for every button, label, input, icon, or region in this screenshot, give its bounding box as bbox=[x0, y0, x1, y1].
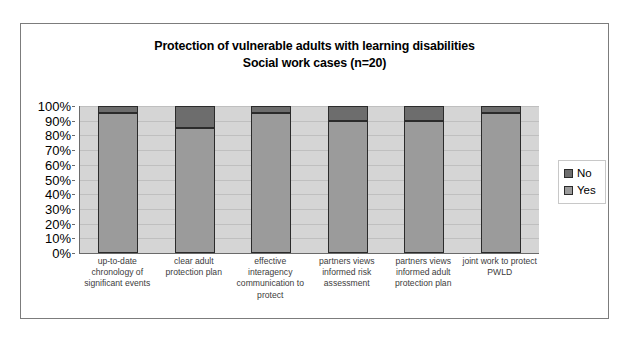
bar-stack bbox=[251, 106, 291, 253]
legend-label: No bbox=[577, 168, 592, 180]
y-axis-tick-mark bbox=[72, 106, 75, 107]
y-axis-tick-label: 10% bbox=[45, 231, 71, 246]
chart-screenshot: Protection of vulnerable adults with lea… bbox=[0, 0, 629, 340]
y-axis-tick-label: 0% bbox=[52, 246, 71, 261]
y-axis-tick-label: 60% bbox=[45, 157, 71, 172]
x-axis-category-label: effective interagency communication to p… bbox=[232, 256, 309, 301]
bar-stack bbox=[328, 106, 368, 253]
bar-stack bbox=[481, 106, 521, 253]
y-axis-tick-mark bbox=[72, 209, 75, 210]
bar-column bbox=[175, 106, 215, 253]
y-axis-tick-label: 80% bbox=[45, 128, 71, 143]
legend-swatch-no bbox=[564, 169, 573, 178]
x-axis-category-label: joint work to protect PWLD bbox=[462, 256, 539, 278]
legend-entry: Yes bbox=[564, 182, 601, 199]
bar-column bbox=[328, 106, 368, 253]
y-axis-tick-label: 100% bbox=[38, 99, 71, 114]
y-axis-tick-label: 90% bbox=[45, 113, 71, 128]
y-axis-tick-mark bbox=[72, 180, 75, 181]
bar-column bbox=[481, 106, 521, 253]
bar-stack bbox=[404, 106, 444, 253]
bar-stack bbox=[175, 106, 215, 253]
bar-segment-no bbox=[481, 106, 521, 113]
y-axis-tick-label: 20% bbox=[45, 216, 71, 231]
y-axis-tick-mark bbox=[72, 150, 75, 151]
bar-stack bbox=[98, 106, 138, 253]
y-axis: 100%90%80%70%60%50%40%30%20%10%0% bbox=[21, 106, 75, 253]
bar-column bbox=[98, 106, 138, 253]
bar-segment-no bbox=[328, 106, 368, 121]
y-axis-tick-mark bbox=[72, 165, 75, 166]
chart-subtitle: Social work cases (n=20) bbox=[21, 55, 608, 72]
bar-segment-yes bbox=[251, 113, 291, 253]
bar-segment-yes bbox=[98, 113, 138, 253]
bar-segment-no bbox=[98, 106, 138, 113]
bar-segment-yes bbox=[328, 121, 368, 253]
chart-frame: Protection of vulnerable adults with lea… bbox=[20, 23, 609, 319]
y-axis-tick-label: 50% bbox=[45, 172, 71, 187]
x-axis-category-label: partners views informed adult protection… bbox=[385, 256, 462, 290]
legend-entry: No bbox=[564, 165, 601, 182]
chart-legend: NoYes bbox=[558, 160, 606, 204]
bar-segment-no bbox=[404, 106, 444, 121]
y-axis-tick-mark bbox=[72, 238, 75, 239]
y-axis-tick-mark bbox=[72, 121, 75, 122]
bar-column bbox=[404, 106, 444, 253]
x-axis-category-label: partners views informed risk assessment bbox=[309, 256, 386, 290]
legend-swatch-yes bbox=[564, 186, 573, 195]
chart-title: Protection of vulnerable adults with lea… bbox=[21, 38, 608, 72]
bar-segment-yes bbox=[481, 113, 521, 253]
y-axis-tick-label: 30% bbox=[45, 201, 71, 216]
bar-series-group bbox=[80, 106, 539, 253]
x-axis-category-label: up-to-date chronology of significant eve… bbox=[79, 256, 156, 290]
plot-area bbox=[79, 106, 539, 254]
y-axis-tick-label: 70% bbox=[45, 143, 71, 158]
chart-title-line1: Protection of vulnerable adults with lea… bbox=[154, 39, 474, 53]
y-axis-tick-mark bbox=[72, 135, 75, 136]
bar-segment-no bbox=[175, 106, 215, 128]
bar-column bbox=[251, 106, 291, 253]
y-axis-tick-mark bbox=[72, 224, 75, 225]
bar-segment-no bbox=[251, 106, 291, 113]
x-axis-category-labels: up-to-date chronology of significant eve… bbox=[79, 256, 538, 318]
y-axis-tick-mark bbox=[72, 194, 75, 195]
bar-segment-yes bbox=[175, 128, 215, 253]
x-axis-category-label: clear adult protection plan bbox=[156, 256, 233, 278]
bar-segment-yes bbox=[404, 121, 444, 253]
legend-label: Yes bbox=[577, 185, 596, 197]
y-axis-tick-mark bbox=[72, 253, 75, 254]
y-axis-tick-label: 40% bbox=[45, 187, 71, 202]
